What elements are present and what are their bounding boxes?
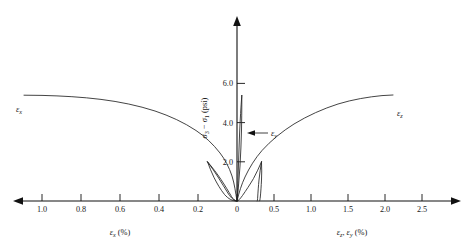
x-tick-label-left-0p8: 0.8 bbox=[76, 205, 86, 214]
x-axis-right-arrowhead bbox=[451, 197, 461, 205]
y-tick-label-6: 6.0 bbox=[223, 79, 233, 88]
epsilon-y-callout-arrowhead bbox=[247, 130, 255, 136]
chart-canvas: 2.0 4.0 6.0 σ3 − σ1 (psi) 1.0 0.8 0.6 0.… bbox=[0, 0, 474, 246]
svg-text:σ3 − σ1 (psi): σ3 − σ1 (psi) bbox=[200, 97, 210, 138]
curve-label-epsilon-x: εx bbox=[16, 105, 22, 115]
y-axis-title: σ3 − σ1 (psi) bbox=[200, 97, 210, 138]
label-z-sub: z bbox=[399, 112, 403, 119]
epsilon-y-callout: εy bbox=[247, 129, 277, 139]
y-axis-tick-labels: 2.0 4.0 6.0 bbox=[223, 79, 233, 166]
x-tick-label-right-0p5: 0.5 bbox=[269, 205, 279, 214]
x-tick-label-right-2p5: 2.5 bbox=[417, 205, 427, 214]
curve-label-epsilon-z: εz bbox=[397, 109, 403, 119]
x-axis-right-tick-labels: 0 0.5 1.0 1.5 2.0 2.5 bbox=[235, 205, 427, 214]
y-tick-label-4: 4.0 bbox=[223, 119, 233, 128]
x-axis-left-tick-labels: 1.0 0.8 0.6 0.4 0.2 bbox=[37, 205, 203, 214]
x-axis-left-arrowhead bbox=[13, 197, 23, 205]
label-x-sub: x bbox=[18, 108, 22, 115]
x-axis-caption-left: εx (%) bbox=[110, 228, 131, 238]
x-tick-label-right-2p0: 2.0 bbox=[380, 205, 390, 214]
x-axis-right-ticks bbox=[237, 194, 422, 201]
curve-epsilon-z bbox=[237, 95, 393, 201]
y-title-units: (psi) bbox=[200, 97, 209, 113]
epsilon-y-callout-label: εy bbox=[271, 129, 277, 139]
x-tick-label-right-1p0: 1.0 bbox=[306, 205, 316, 214]
x-tick-label-left-0p2: 0.2 bbox=[193, 205, 203, 214]
x-tick-label-right-1p5: 1.5 bbox=[343, 205, 353, 214]
x-axis-caption-right: εz, εy (%) bbox=[337, 228, 368, 238]
x-right-units: (%) bbox=[355, 228, 368, 237]
x-left-units: (%) bbox=[118, 228, 131, 237]
x-tick-label-left-1p0: 1.0 bbox=[37, 205, 47, 214]
callout-sub: y bbox=[273, 132, 277, 139]
y-axis-top-arrowhead bbox=[233, 16, 241, 26]
stress-strain-figure: 2.0 4.0 6.0 σ3 − σ1 (psi) 1.0 0.8 0.6 0.… bbox=[0, 0, 474, 246]
x-tick-label-right-0: 0 bbox=[235, 205, 239, 214]
x-tick-label-left-0p6: 0.6 bbox=[115, 205, 125, 214]
x-axis-left-ticks bbox=[42, 194, 198, 201]
x-tick-label-left-0p4: 0.4 bbox=[154, 205, 164, 214]
axes-group bbox=[13, 16, 461, 205]
